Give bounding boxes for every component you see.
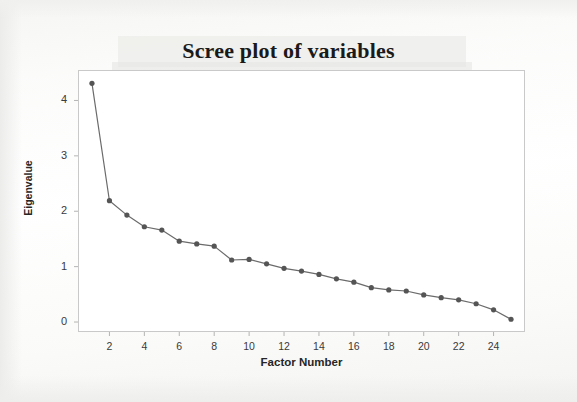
data-point-marker xyxy=(212,244,217,249)
data-point-marker xyxy=(177,239,182,244)
data-point-marker xyxy=(474,301,479,306)
data-point-marker xyxy=(107,198,112,203)
figure-page: Scree plot of variables 01234 2468101214… xyxy=(0,0,577,402)
data-point-marker xyxy=(508,317,513,322)
data-point-marker xyxy=(404,288,409,293)
data-point-marker xyxy=(439,295,444,300)
data-point-marker xyxy=(89,81,94,86)
data-point-marker xyxy=(229,257,234,262)
data-point-marker xyxy=(194,241,199,246)
data-point-marker xyxy=(299,268,304,273)
axis-ticks-group xyxy=(74,100,494,336)
data-point-marker xyxy=(421,292,426,297)
data-point-marker xyxy=(334,276,339,281)
eigenvalue-line xyxy=(92,83,511,319)
data-point-marker xyxy=(369,285,374,290)
scree-plot-figure: Scree plot of variables 01234 2468101214… xyxy=(0,0,577,402)
data-point-marker xyxy=(281,266,286,271)
chart-title: Scree plot of variables xyxy=(0,38,577,64)
data-point-marker xyxy=(142,224,147,229)
data-point-marker xyxy=(247,257,252,262)
data-point-marker xyxy=(351,280,356,285)
data-point-marker xyxy=(316,272,321,277)
data-point-marker xyxy=(456,297,461,302)
eigenvalue-markers xyxy=(89,81,513,322)
data-point-marker xyxy=(386,287,391,292)
data-point-marker xyxy=(159,227,164,232)
data-point-marker xyxy=(264,261,269,266)
data-point-marker xyxy=(124,213,129,218)
data-point-marker xyxy=(491,307,496,312)
